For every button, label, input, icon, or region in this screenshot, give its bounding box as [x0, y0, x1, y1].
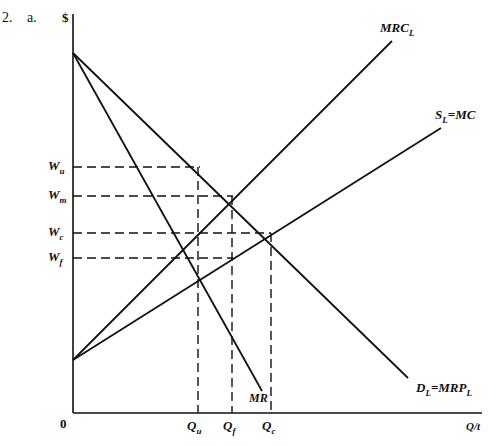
problem-number: 2.: [2, 10, 13, 26]
origin-label: 0: [60, 416, 67, 432]
demand-label: DL=MRPL: [416, 380, 472, 398]
quantity-label-qf: Qf: [223, 418, 235, 436]
mr-label: MR: [249, 391, 268, 406]
supply-label: SL=MC: [435, 107, 475, 125]
wage-label-wu: Wu: [48, 158, 65, 176]
mrc-label: MRCL: [380, 20, 414, 38]
quantity-label-qu: Qu: [187, 418, 201, 436]
problem-part: a.: [27, 10, 37, 26]
quantity-label-qc: Qc: [262, 418, 275, 436]
wage-label-wf: Wf: [48, 249, 63, 267]
mr-curve: [73, 53, 262, 391]
y-axis-label: $: [62, 10, 69, 26]
x-axis-label: Q/t: [466, 420, 480, 432]
wage-label-wm: Wm: [48, 187, 67, 205]
wage-label-wc: Wc: [48, 224, 64, 242]
supply-curve: [73, 128, 441, 360]
